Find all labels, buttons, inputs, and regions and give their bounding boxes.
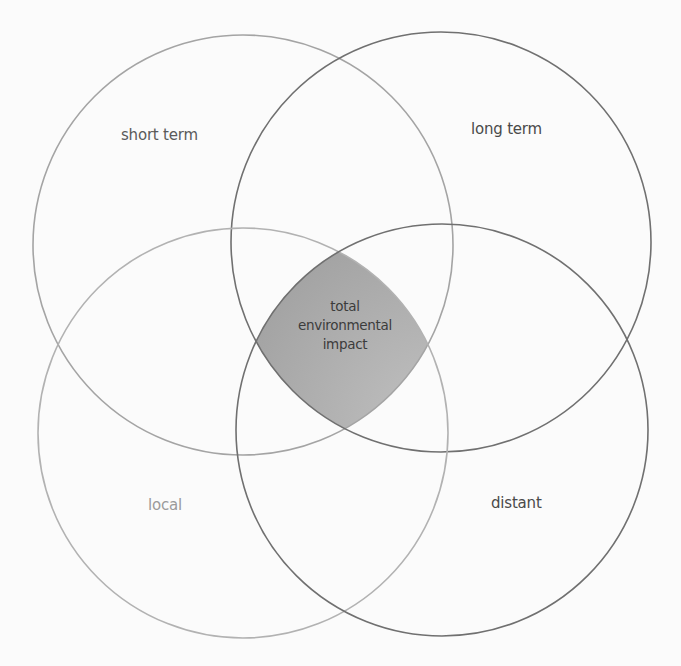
label-short-term: short term [121, 126, 198, 144]
label-long-term: long term [471, 120, 542, 138]
intersection-label-line-3: impact [270, 335, 420, 354]
intersection-region [236, 224, 648, 636]
intersection-label-line-2: environmental [270, 316, 420, 335]
label-local: local [148, 496, 182, 514]
intersection-label: total environmental impact [270, 297, 420, 354]
label-distant: distant [491, 494, 542, 512]
venn-diagram: short term long term local distant total… [0, 0, 681, 666]
intersection-label-line-1: total [270, 297, 420, 316]
